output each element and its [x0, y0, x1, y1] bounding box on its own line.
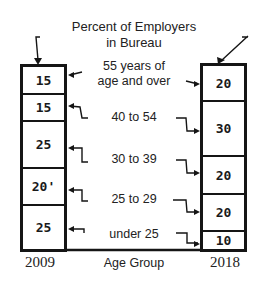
top-arrow-right-icon — [222, 36, 248, 60]
age-label-55-plus: 55 years of age and over — [74, 59, 194, 89]
top-arrow-left-icon — [36, 37, 40, 60]
bar-2018: 20 30 20 20 10 — [200, 63, 247, 252]
age-label-30-39: 30 to 39 — [84, 152, 184, 167]
age-label-40-54: 40 to 54 — [84, 110, 184, 125]
segment-25-29: 20 — [203, 195, 244, 232]
segment-30-39: 20 — [203, 157, 244, 195]
age-label-under-25: under 25 — [84, 227, 184, 242]
segment-55-plus: 15 — [23, 67, 64, 95]
bar-2009: 15 15 25 20' 25 — [20, 64, 67, 252]
segment-55-plus: 20 — [203, 66, 244, 102]
segment-40-54: 15 — [23, 95, 64, 122]
age-label-25-29: 25 to 29 — [84, 192, 184, 207]
segment-30-39: 25 — [23, 122, 64, 169]
x-axis-label: Age Group — [0, 256, 268, 270]
segment-40-54: 30 — [203, 102, 244, 157]
segment-25-29: 20' — [23, 169, 64, 206]
segment-under-25: 10 — [203, 232, 244, 249]
segment-under-25: 25 — [23, 206, 64, 249]
